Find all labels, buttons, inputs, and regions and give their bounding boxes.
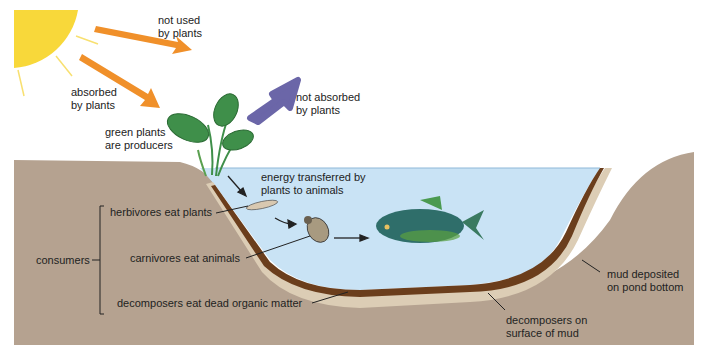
label-absorbed: absorbedby plants — [71, 86, 117, 112]
label-energy-transfer: energy transferred byplants to animals — [261, 171, 366, 197]
label-herbivores: herbivores eat plants — [110, 206, 212, 219]
label-producers: green plantsare producers — [105, 126, 173, 152]
label-carnivores: carnivores eat animals — [130, 252, 240, 265]
label-not-absorbed: not absorbedby plants — [296, 91, 360, 117]
light-arrow-not-absorbed-icon — [250, 80, 298, 122]
sun-icon — [14, 10, 98, 96]
label-mud-deposited: mud depositedon pond bottom — [607, 268, 683, 294]
label-decomposers-mud: decomposers onsurface of mud — [506, 314, 587, 340]
label-not-used: not usedby plants — [158, 14, 202, 40]
label-consumers: consumers — [36, 254, 90, 267]
label-decomposers: decomposers eat dead organic matter — [117, 297, 302, 310]
